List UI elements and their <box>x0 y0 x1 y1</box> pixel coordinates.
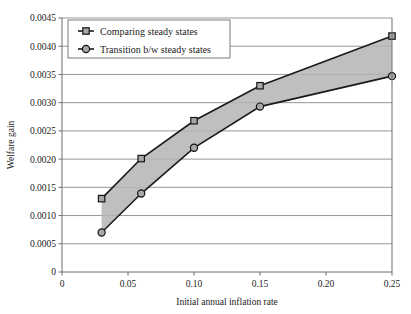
y-tick-label: 0.0020 <box>30 155 56 165</box>
shaded-band-group <box>102 36 392 232</box>
square-marker-icon <box>83 28 89 34</box>
x-axis-title: Initial annual inflation rate <box>176 297 278 307</box>
x-tick-labels-group: 00.050.100.150.200.25 <box>60 279 401 289</box>
legend-item-label-0: Comparing steady states <box>100 26 198 37</box>
y-tick-label: 0.0010 <box>30 211 56 221</box>
y-axis-title: Welfare gain <box>6 120 16 169</box>
chart-legend: Comparing steady statesTransition b/w st… <box>68 20 230 58</box>
y-tick-label: 0.0040 <box>30 42 56 52</box>
circle-marker-icon <box>98 229 105 236</box>
y-tick-label: 0.0015 <box>30 183 56 193</box>
y-tick-label: 0.0045 <box>30 13 56 23</box>
circle-marker-icon <box>256 103 263 110</box>
y-tick-label: 0.0005 <box>30 239 56 249</box>
square-marker-icon <box>191 118 197 124</box>
x-tick-label: 0.20 <box>318 279 335 289</box>
circle-marker-icon <box>138 190 145 197</box>
y-tick-label: 0.0030 <box>30 98 56 108</box>
square-marker-icon <box>138 155 144 161</box>
welfare-gain-line-chart: 00.00050.00100.00150.00200.00250.00300.0… <box>0 0 411 314</box>
x-tick-label: 0 <box>60 279 65 289</box>
y-tick-label: 0 <box>51 267 56 277</box>
legend-item-label-1: Transition b/w steady states <box>100 44 211 55</box>
x-tick-label: 0.15 <box>252 279 269 289</box>
x-tick-label: 0.05 <box>120 279 137 289</box>
shaded-band <box>102 36 392 232</box>
square-marker-icon <box>257 83 263 89</box>
chart-canvas: 00.00050.00100.00150.00200.00250.00300.0… <box>0 0 411 314</box>
y-tick-labels-group: 00.00050.00100.00150.00200.00250.00300.0… <box>30 13 56 277</box>
y-tick-label: 0.0035 <box>30 70 56 80</box>
circle-marker-icon <box>82 45 89 52</box>
y-tick-label: 0.0025 <box>30 126 56 136</box>
x-tick-label: 0.10 <box>186 279 203 289</box>
x-tick-label: 0.25 <box>384 279 401 289</box>
square-marker-icon <box>98 195 104 201</box>
circle-marker-icon <box>190 144 197 151</box>
